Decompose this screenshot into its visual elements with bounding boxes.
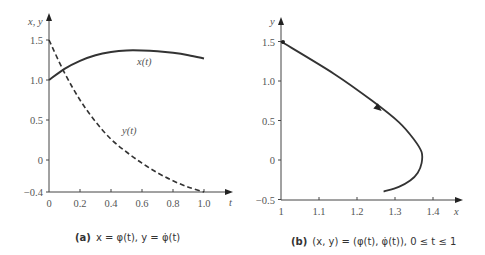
x-tick-label: 0.8 bbox=[166, 198, 179, 209]
series-y-line bbox=[49, 40, 204, 192]
series-x-label: x(t) bbox=[136, 56, 152, 68]
y-tick-label: 1.0 bbox=[262, 76, 275, 87]
series-y-label: y(t) bbox=[121, 125, 137, 137]
caption-b: (b)(x, y) = (φ(t), φ̇(t)), 0 ≤ t ≤ 1 bbox=[291, 236, 456, 247]
y-tick-label: −0.5 bbox=[256, 195, 275, 206]
caption-a-text: x = φ(t), y = φ̇(t) bbox=[96, 232, 180, 243]
y-tick-label: 1.5 bbox=[262, 37, 275, 48]
x-axis-label-b: x bbox=[453, 206, 459, 217]
x-tick-label: 0.6 bbox=[135, 198, 148, 209]
y-tick-label: 1.0 bbox=[30, 75, 43, 86]
x-axis-label-a: t bbox=[229, 197, 233, 208]
y-axis-label-a: x, y bbox=[27, 16, 43, 27]
x-tick-label: 1.4 bbox=[426, 206, 440, 217]
y-tick-label: 0 bbox=[270, 155, 275, 166]
x-tick-label: 0.4 bbox=[104, 198, 118, 209]
caption-b-text: (x, y) = (φ(t), φ̇(t)), 0 ≤ t ≤ 1 bbox=[312, 236, 456, 247]
x-tick-label: 1.3 bbox=[388, 206, 401, 217]
caption-a: (a)x = φ(t), y = φ̇(t) bbox=[75, 232, 180, 243]
y-axis-arrow-icon bbox=[46, 13, 52, 21]
chart-a: −0.400.51.01.5 00.20.40.60.81.0 x, y t x… bbox=[24, 13, 233, 209]
y-tick-label: 1.5 bbox=[30, 35, 43, 46]
start-point bbox=[281, 40, 285, 44]
x-tick-label: 0 bbox=[46, 198, 51, 209]
caption-b-tag: (b) bbox=[291, 236, 307, 247]
x-axis-arrow-icon bbox=[455, 197, 463, 203]
y-ticks-a: −0.400.51.01.5 bbox=[24, 35, 49, 198]
x-tick-label: 1 bbox=[278, 206, 283, 217]
x-axis-arrow-icon bbox=[225, 189, 233, 195]
series-x-line bbox=[49, 50, 204, 80]
figure: −0.400.51.01.5 00.20.40.60.81.0 x, y t x… bbox=[0, 0, 485, 255]
y-tick-label: −0.4 bbox=[24, 187, 44, 198]
x-tick-label: 1.1 bbox=[312, 206, 325, 217]
x-tick-label: 1.2 bbox=[350, 206, 363, 217]
y-axis-label-b: y bbox=[269, 16, 275, 27]
x-tick-label: 1.0 bbox=[197, 198, 210, 209]
chart-b: −0.500.51.01.5 11.11.21.31.4 y x bbox=[256, 16, 463, 217]
x-tick-label: 0.2 bbox=[73, 198, 86, 209]
trajectory-line bbox=[281, 42, 422, 192]
y-axis-arrow-icon bbox=[278, 17, 284, 25]
y-tick-label: 0 bbox=[38, 155, 43, 166]
y-ticks-b: −0.500.51.01.5 bbox=[256, 37, 281, 206]
y-tick-label: 0.5 bbox=[262, 116, 275, 127]
y-tick-label: 0.5 bbox=[30, 115, 43, 126]
caption-a-tag: (a) bbox=[75, 232, 91, 243]
